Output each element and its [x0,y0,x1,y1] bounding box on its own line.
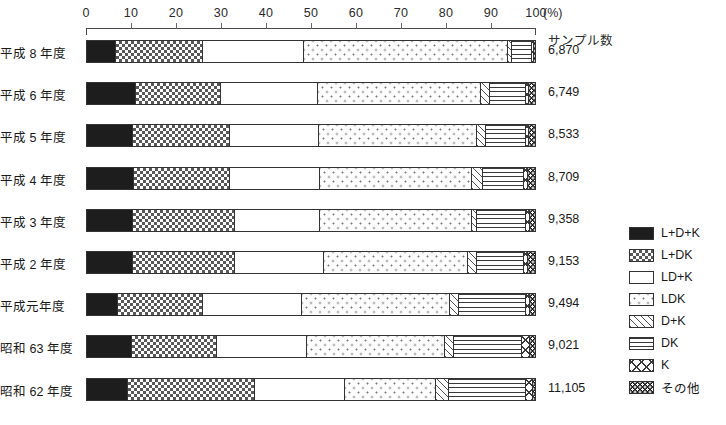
row-sample-count: 9,358 [548,212,579,226]
legend-item[interactable]: DK [629,332,724,354]
legend-item-label: LD+K [661,270,693,284]
x-axis-cap-left [86,28,87,35]
legend-swatch-icon [629,315,654,328]
x-axis-tick [176,23,177,29]
legend-item[interactable]: その他 [629,376,724,398]
legend-swatch-icon [629,271,654,284]
bar-segment-k [522,336,531,357]
bar-segment-ldk [87,379,128,400]
bar-segment-dk [472,168,482,189]
row-sample-count: 9,021 [548,338,579,352]
x-axis-tick-label: 0 [82,6,89,20]
bar-segment-ldk [136,83,221,104]
bar-segment-ldk [87,83,136,104]
row-category-label: 昭和 63 年度 [0,338,80,357]
row-sample-count: 9,494 [548,296,579,310]
bar-segment-ldk [87,252,133,273]
bar-segment-その他 [529,125,535,146]
bar-segment-dk [468,252,477,273]
row-category-label: 平成 8 年度 [0,43,80,62]
bar-segment-その他 [530,294,534,315]
bar-segment-ldk [320,210,472,231]
bar-segment-ldk [133,210,235,231]
chart-row: 平成 3 年度9,358 [0,209,726,233]
x-axis-tick-label: 50 [304,6,318,20]
bar-segment-その他 [534,41,535,62]
bar-segment-ldk [132,336,217,357]
bar-segment-ldk [87,168,134,189]
legend-item[interactable]: D+K [629,310,724,332]
bar-segment-ldk [203,294,302,315]
row-category-label: 平成 5 年度 [0,127,80,146]
legend-item-label: LDK [661,292,685,306]
bar-segment-ldk [87,210,133,231]
x-axis-tick [131,23,132,29]
legend-swatch-icon [629,249,654,262]
row-category-label: 平成 4 年度 [0,170,80,189]
stacked-bar [86,209,536,232]
row-sample-count: 6,870 [548,43,579,57]
row-sample-count: 9,153 [548,254,579,268]
bar-segment-ldk [318,83,482,104]
bar-segment-dk [481,83,490,104]
x-axis-tick-label: 20 [169,6,183,20]
x-axis-tick-label: 70 [394,6,408,20]
x-axis-tick-label: 80 [439,6,453,20]
bar-segment-dk [512,41,533,62]
row-sample-count: 11,105 [548,381,585,395]
legend-swatch-icon [629,381,654,394]
bar-segment-ldk [87,41,116,62]
bar-segment-ldk [134,168,230,189]
bar-segment-ldk [87,336,132,357]
bar-segment-dk [486,125,526,146]
legend-item[interactable]: K [629,354,724,376]
stacked-bar [86,293,536,316]
bar-segment-dk [477,125,486,146]
chart-row: 昭和 62 年度11,105 [0,378,726,402]
legend-item[interactable]: L+D+K [629,222,724,244]
chart-row: 昭和 63 年度9,021 [0,335,726,359]
legend-item-label: D+K [661,314,686,328]
bar-segment-dk [450,294,459,315]
legend-swatch-icon [629,359,654,372]
legend-item-label: DK [661,336,678,350]
x-axis-tick [491,23,492,29]
legend-item[interactable]: L+DK [629,244,724,266]
legend-item-label: K [661,358,669,372]
bar-segment-ldk [133,125,231,146]
legend-swatch-icon [629,227,654,240]
x-axis-cap-right [535,28,536,35]
chart-legend: L+D+KL+DKLD+KLDKD+KDKKその他 [629,222,724,398]
bar-segment-ldk [235,210,320,231]
bar-segment-ldk [345,379,437,400]
row-category-label: 平成 6 年度 [0,85,80,104]
bar-segment-ldk [320,168,472,189]
x-axis-tick-label: 10 [124,6,138,20]
bar-segment-その他 [530,336,534,357]
x-axis-tick [311,23,312,29]
x-axis-tick-label: 90 [484,6,498,20]
bar-segment-ldk [116,41,203,62]
chart-row: 平成 8 年度6,870 [0,40,726,64]
stacked-bar [86,124,536,147]
bar-segment-ldk [87,294,118,315]
chart-row: 平成元年度9,494 [0,293,726,317]
chart-row: 平成 2 年度9,153 [0,251,726,275]
x-axis-unit-label: (%) [543,6,562,20]
bar-segment-dk [454,336,521,357]
bar-segment-ldk [255,379,345,400]
bar-segment-ldk [87,125,133,146]
legend-item[interactable]: LD+K [629,266,724,288]
bar-segment-ldk [307,336,446,357]
x-axis-tick [401,23,402,29]
bar-segment-ldk [319,125,477,146]
x-axis-tick [266,23,267,29]
stacked-bar [86,82,536,105]
legend-swatch-icon [629,337,654,350]
legend-item[interactable]: LDK [629,288,724,310]
legend-swatch-icon [629,293,654,306]
bar-segment-dk [449,379,527,400]
chart-row: 平成 6 年度6,749 [0,82,726,106]
legend-item-label: L+DK [661,248,693,262]
bar-segment-ldk [235,252,325,273]
